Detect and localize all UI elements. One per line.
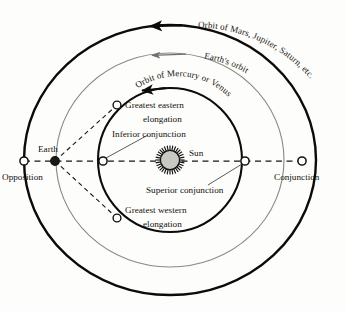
sun-symbol xyxy=(155,145,184,174)
earth-marker xyxy=(51,157,60,166)
sun-label: Sun xyxy=(189,148,204,158)
greatest-western-elongation-label-line1: Greatest western xyxy=(125,205,187,215)
superior-conjunction-leader-line xyxy=(208,164,242,185)
inner-orbit-label: Orbit of Mercury or Venus xyxy=(133,68,234,99)
sun-disc-icon xyxy=(160,150,179,169)
earth-orbit-label-text: Earth's orbit xyxy=(204,51,251,76)
outer-orbit-label: Orbit of Mars, Jupiter, Saturn, etc. xyxy=(198,19,317,80)
opposition-marker xyxy=(20,157,28,165)
superior-conjunction-marker xyxy=(241,157,249,165)
greatest-eastern-elongation-label-line2: elongation xyxy=(143,114,182,124)
inner-orbit-label-text: Orbit of Mercury or Venus xyxy=(133,68,234,99)
orbital-configuration-diagram: Orbit of Mars, Jupiter, Saturn, etc. Ear… xyxy=(0,0,346,311)
conjunction-label: Conjunction xyxy=(274,172,320,182)
superior-conjunction-label: Superior conjunction xyxy=(146,185,224,195)
earth-label: Earth xyxy=(38,144,58,154)
inferior-conjunction-label: Inferior conjunction xyxy=(112,129,186,139)
diagram-canvas: Orbit of Mars, Jupiter, Saturn, etc. Ear… xyxy=(0,0,346,311)
outer-orbit-direction-arrow xyxy=(150,25,182,26)
earth-orbit-direction-arrow xyxy=(152,54,186,55)
earth-orbit-label: Earth's orbit xyxy=(204,51,251,76)
conjunction-marker xyxy=(298,157,306,165)
greatest-western-elongation-label-line2: elongation xyxy=(143,219,182,229)
outer-orbit-label-text: Orbit of Mars, Jupiter, Saturn, etc. xyxy=(198,19,317,80)
curved-orbit-labels: Orbit of Mars, Jupiter, Saturn, etc. Ear… xyxy=(133,19,316,98)
opposition-label: Opposition xyxy=(2,172,43,182)
greatest-western-elongation-marker xyxy=(113,214,121,222)
earth-to-western-elongation-line xyxy=(55,161,117,218)
greatest-eastern-elongation-label-line1: Greatest eastern xyxy=(125,100,184,110)
earth-to-eastern-elongation-line xyxy=(55,105,117,161)
greatest-eastern-elongation-marker xyxy=(113,101,121,109)
inner-orbit-direction-arrow xyxy=(142,88,166,90)
inferior-conjunction-marker xyxy=(99,157,107,165)
